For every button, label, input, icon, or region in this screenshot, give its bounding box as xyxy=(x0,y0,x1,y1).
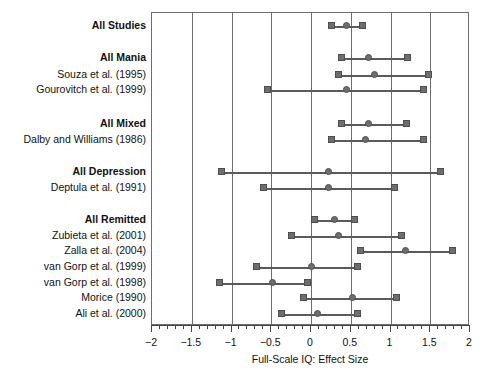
axis-tick-minor xyxy=(223,325,224,329)
forest-row xyxy=(152,69,468,83)
plot-area xyxy=(152,13,468,324)
axis-tick-minor xyxy=(207,325,208,329)
axis-tick-minor xyxy=(302,325,303,329)
ci-lower-cap xyxy=(338,120,345,127)
group-label: All Studies xyxy=(0,20,146,31)
study-label: Ali et al. (2000) xyxy=(0,308,146,319)
effect-size-point xyxy=(314,310,321,317)
axis-tick-minor xyxy=(167,325,168,329)
axis-tick-minor xyxy=(445,325,446,329)
effect-size-point xyxy=(325,184,332,191)
plot-frame xyxy=(151,12,469,325)
confidence-interval-line xyxy=(220,283,307,285)
group-label: All Mania xyxy=(0,52,146,63)
ci-lower-cap xyxy=(357,247,364,254)
forest-row xyxy=(152,134,468,148)
ci-lower-cap xyxy=(311,216,318,223)
axis-tick-label: 0.5 xyxy=(342,336,357,348)
axis-tick-major xyxy=(350,325,351,332)
effect-size-point xyxy=(362,136,369,143)
axis-tick-minor xyxy=(278,325,279,329)
study-label: Zalla et al. (2004) xyxy=(0,245,146,256)
ci-lower-cap xyxy=(260,184,267,191)
study-label: Gourovitch et al. (1999) xyxy=(0,84,146,95)
axis-tick-label: 1.5 xyxy=(422,336,437,348)
axis-tick-minor xyxy=(183,325,184,329)
ci-upper-cap xyxy=(420,86,427,93)
ci-lower-cap xyxy=(218,168,225,175)
effect-size-point xyxy=(365,120,372,127)
forest-row xyxy=(152,245,468,259)
ci-upper-cap xyxy=(403,120,410,127)
effect-size-point xyxy=(349,294,356,301)
effect-size-point xyxy=(365,54,372,61)
effect-size-point xyxy=(343,86,350,93)
axis-tick-minor xyxy=(358,325,359,329)
axis-tick-minor xyxy=(254,325,255,329)
effect-size-point xyxy=(371,71,378,78)
forest-row xyxy=(152,182,468,196)
axis-tick-label: 1 xyxy=(387,336,393,348)
axis-tick-minor xyxy=(318,325,319,329)
ci-lower-cap xyxy=(328,22,335,29)
axis-tick-minor xyxy=(461,325,462,329)
confidence-interval-line xyxy=(257,267,357,269)
group-label: All Depression xyxy=(0,166,146,177)
axis-tick-minor xyxy=(334,325,335,329)
axis-tick-minor xyxy=(238,325,239,329)
axis-tick-label: 2 xyxy=(466,336,472,348)
forest-row xyxy=(152,277,468,291)
axis-tick-minor xyxy=(437,325,438,329)
group-label: All Remitted xyxy=(0,214,146,225)
group-label: All Mixed xyxy=(0,118,146,129)
x-axis-tick-labels: −2−1.5−1−0.500.511.52 xyxy=(151,336,469,350)
ci-upper-cap xyxy=(359,22,366,29)
forest-row xyxy=(152,20,468,34)
confidence-interval-line xyxy=(338,75,429,77)
forest-row xyxy=(152,52,468,66)
ci-upper-cap xyxy=(404,54,411,61)
forest-row xyxy=(152,166,468,180)
study-label: Morice (1990) xyxy=(0,292,146,303)
effect-size-point xyxy=(402,247,409,254)
ci-lower-cap xyxy=(288,232,295,239)
axis-tick-label: −2 xyxy=(145,336,157,348)
ci-upper-cap xyxy=(437,168,444,175)
axis-tick-minor xyxy=(382,325,383,329)
axis-tick-major xyxy=(429,325,430,332)
effect-size-point xyxy=(335,232,342,239)
ci-upper-cap xyxy=(393,294,400,301)
axis-tick-major xyxy=(390,325,391,332)
axis-tick-major xyxy=(231,325,232,332)
effect-size-point xyxy=(269,279,276,286)
axis-tick-minor xyxy=(286,325,287,329)
confidence-interval-line xyxy=(341,124,406,126)
axis-tick-minor xyxy=(413,325,414,329)
axis-tick-minor xyxy=(215,325,216,329)
ci-lower-cap xyxy=(335,71,342,78)
effect-size-point xyxy=(343,22,350,29)
axis-tick-major xyxy=(151,325,152,332)
ci-upper-cap xyxy=(398,232,405,239)
forest-row xyxy=(152,308,468,322)
axis-tick-minor xyxy=(159,325,160,329)
axis-tick-minor xyxy=(294,325,295,329)
axis-tick-minor xyxy=(374,325,375,329)
forest-row xyxy=(152,118,468,132)
ci-upper-cap xyxy=(351,216,358,223)
study-label: Souza et al. (1995) xyxy=(0,69,146,80)
confidence-interval-line xyxy=(291,236,402,238)
axis-tick-label: −1 xyxy=(225,336,237,348)
study-label: van Gorp et al. (1998) xyxy=(0,277,146,288)
ci-upper-cap xyxy=(354,310,361,317)
effect-size-point xyxy=(308,263,315,270)
effect-size-point xyxy=(331,216,338,223)
forest-row xyxy=(152,214,468,228)
axis-tick-minor xyxy=(397,325,398,329)
axis-tick-minor xyxy=(342,325,343,329)
forest-row xyxy=(152,230,468,244)
forest-row xyxy=(152,84,468,98)
axis-tick-major xyxy=(191,325,192,332)
axis-tick-minor xyxy=(421,325,422,329)
axis-tick-major xyxy=(469,325,470,332)
